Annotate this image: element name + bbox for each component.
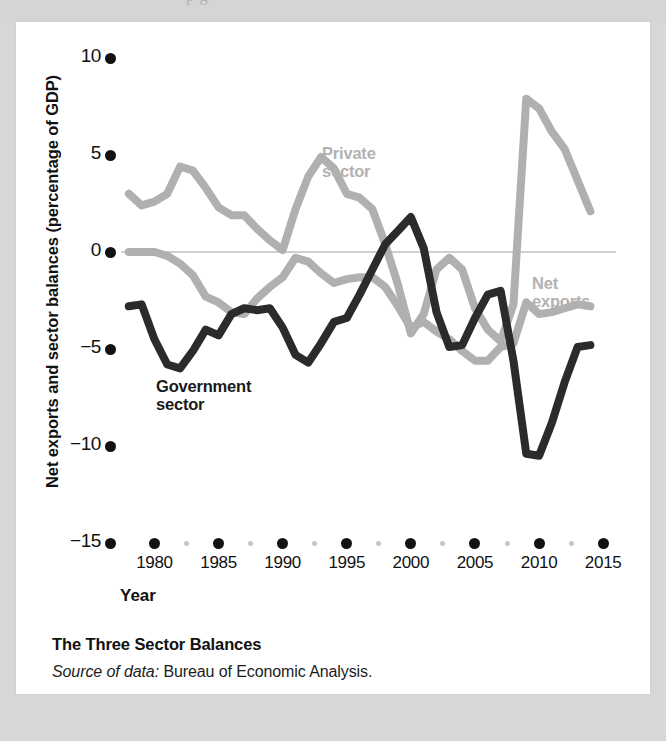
series-label-net-exports-line2: exports — [532, 292, 590, 310]
x-tick-label: 1990 — [254, 553, 312, 573]
y-tick-dot — [105, 150, 116, 161]
page-top-strip: p g — [0, 0, 666, 22]
y-tick-label: −10 — [53, 433, 101, 455]
caption-source-prefix: Source of data: — [52, 663, 159, 680]
series-line-private-sector — [129, 99, 591, 342]
x-tick-dot-minor — [184, 541, 189, 546]
chart-plot-area — [16, 22, 650, 694]
y-tick-label: −5 — [53, 336, 101, 358]
x-tick-dot — [469, 538, 480, 549]
x-tick-label: 2005 — [446, 553, 504, 573]
series-label-government-sector-line2: sector — [156, 395, 251, 413]
x-tick-dot-minor — [248, 541, 253, 546]
x-tick-dot — [534, 538, 545, 549]
caption-source: Source of data: Bureau of Economic Analy… — [52, 663, 612, 681]
y-tick-label: 10 — [53, 45, 101, 67]
x-tick-dot — [598, 538, 609, 549]
y-tick-dot — [105, 53, 116, 64]
series-label-net-exports: Net exports — [532, 274, 590, 311]
y-tick-dot — [105, 538, 116, 549]
x-tick-dot — [405, 538, 416, 549]
y-tick-label: −15 — [53, 530, 101, 552]
y-tick-dot — [105, 344, 116, 355]
series-label-government-sector-line1: Government — [156, 377, 251, 395]
figure-caption: The Three Sector Balances Source of data… — [52, 635, 612, 681]
chart-svg — [16, 22, 650, 694]
series-label-government-sector: Government sector — [156, 377, 251, 414]
series-label-private-sector: Private sector — [322, 144, 376, 181]
series-label-net-exports-line1: Net — [532, 274, 590, 292]
x-tick-label: 2010 — [510, 553, 568, 573]
figure-panel: Net exports and sector balances (percent… — [16, 22, 650, 694]
y-tick-label: 5 — [53, 142, 101, 164]
series-label-private-sector-line2: sector — [322, 162, 376, 180]
x-tick-dot-minor — [312, 541, 317, 546]
x-tick-dot-minor — [505, 541, 510, 546]
caption-source-text: Bureau of Economic Analysis. — [163, 663, 372, 680]
x-tick-dot-minor — [569, 541, 574, 546]
y-tick-dot — [105, 441, 116, 452]
x-tick-label: 1985 — [190, 553, 248, 573]
x-tick-dot — [213, 538, 224, 549]
caption-title: The Three Sector Balances — [52, 635, 612, 654]
x-axis-title: Year — [120, 586, 156, 606]
x-tick-label: 1995 — [318, 553, 376, 573]
y-tick-label: 0 — [53, 239, 101, 261]
x-tick-dot — [277, 538, 288, 549]
x-tick-dot-minor — [376, 541, 381, 546]
x-tick-dot — [149, 538, 160, 549]
x-tick-label: 2000 — [382, 553, 440, 573]
y-tick-dot — [105, 247, 116, 258]
series-label-private-sector-line1: Private — [322, 144, 376, 162]
cropped-header-text: p g — [186, 0, 208, 6]
x-tick-label: 1980 — [125, 553, 183, 573]
x-tick-dot — [341, 538, 352, 549]
page-background: p g Net exports and sector balances (per… — [0, 0, 666, 741]
x-tick-label: 2015 — [574, 553, 632, 573]
